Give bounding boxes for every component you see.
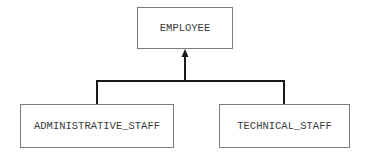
node-employee[interactable]: EMPLOYEE <box>137 7 233 49</box>
node-technical-staff[interactable]: TECHNICAL_STAFF <box>219 104 350 148</box>
node-administrative-staff[interactable]: ADMINISTRATIVE_STAFF <box>20 104 174 148</box>
diagram-canvas: EMPLOYEE ADMINISTRATIVE_STAFF TECHNICAL_… <box>0 0 365 158</box>
node-label: ADMINISTRATIVE_STAFF <box>34 120 160 132</box>
arrowhead-icon <box>182 49 189 57</box>
node-label: EMPLOYEE <box>160 22 210 34</box>
node-label: TECHNICAL_STAFF <box>237 120 332 132</box>
